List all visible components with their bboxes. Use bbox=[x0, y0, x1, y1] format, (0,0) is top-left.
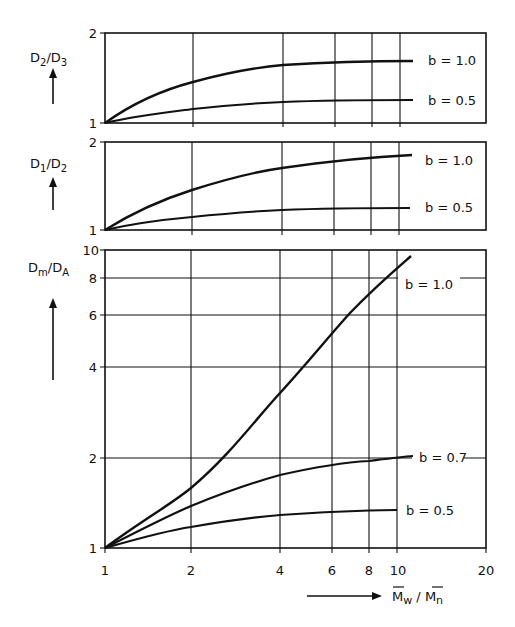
top-arrow-up-icon bbox=[49, 68, 57, 78]
svg-text:Mw / Mn: Mw / Mn bbox=[392, 589, 443, 607]
mid-ytick-1: 1 bbox=[89, 223, 97, 238]
bottom-curve-b07 bbox=[105, 456, 413, 548]
bot-ytick-4: 4 bbox=[89, 360, 97, 375]
bot-ytick-2: 2 bbox=[89, 451, 97, 466]
mid-legend-b05: b = 0.5 bbox=[425, 200, 473, 215]
xtick-1: 1 bbox=[101, 563, 109, 578]
middle-panel-grid bbox=[100, 142, 399, 235]
bot-ytick-6: 6 bbox=[89, 308, 97, 323]
bot-ytick-8: 8 bbox=[89, 271, 97, 286]
bot-legend-b10: b = 1.0 bbox=[405, 277, 453, 292]
xtick-4: 4 bbox=[276, 563, 284, 578]
top-ytick-1: 1 bbox=[89, 116, 97, 131]
bot-ytick-1: 1 bbox=[89, 541, 97, 556]
x-arrow-right-icon bbox=[372, 592, 382, 600]
y-arrows bbox=[53, 75, 375, 596]
mid-ylabel: D1/D2 bbox=[30, 156, 67, 174]
mid-legend-b10: b = 1.0 bbox=[425, 153, 473, 168]
middle-curve-b10 bbox=[105, 155, 412, 230]
top-ytick-2: 2 bbox=[89, 26, 97, 41]
bot-ylabel: Dm/DA bbox=[28, 260, 69, 278]
bottom-curve-b10 bbox=[105, 256, 411, 548]
xtick-6: 6 bbox=[328, 563, 336, 578]
top-curve-b05 bbox=[105, 100, 413, 123]
top-panel-frame bbox=[105, 33, 486, 123]
xtick-2: 2 bbox=[187, 563, 195, 578]
xtick-10: 10 bbox=[390, 563, 407, 578]
chart-canvas: D2/D3 D1/D2 Dm/DA 2 1 2 1 10 8 6 4 2 1 1… bbox=[0, 0, 515, 627]
bot-legend-b05: b = 0.5 bbox=[406, 503, 454, 518]
top-legend-b10: b = 1.0 bbox=[428, 53, 476, 68]
top-panel-grid bbox=[100, 33, 400, 127]
xtick-8: 8 bbox=[365, 563, 373, 578]
top-ylabel: D2/D3 bbox=[30, 50, 67, 68]
top-panel bbox=[100, 33, 486, 127]
mid-ytick-2: 2 bbox=[89, 135, 97, 150]
bot-arrow-up-icon bbox=[49, 298, 57, 308]
middle-curve-b05 bbox=[105, 208, 410, 230]
bot-legend-b07: b = 0.7 bbox=[419, 450, 467, 465]
xtick-20: 20 bbox=[478, 563, 495, 578]
bot-ytick-10: 10 bbox=[82, 243, 99, 258]
top-legend-b05: b = 0.5 bbox=[428, 93, 476, 108]
x-axis-label: Mw / Mn bbox=[392, 587, 443, 607]
mid-arrow-up-icon bbox=[49, 177, 57, 187]
bottom-curve-b05 bbox=[105, 510, 397, 548]
